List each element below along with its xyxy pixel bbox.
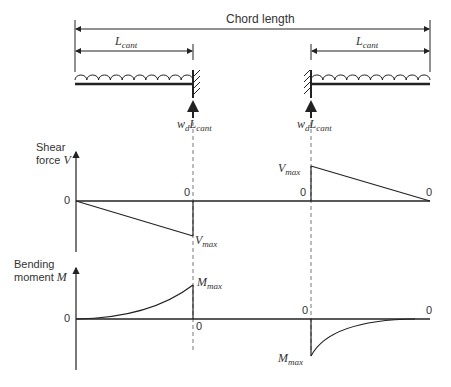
left-cantilever-beam — [75, 70, 200, 118]
right-span-label: Lcant — [356, 35, 378, 52]
moment-zero-right: 0 — [426, 304, 432, 316]
right-reaction-label: wdLcant — [297, 118, 332, 135]
shear-zero-right: 0 — [426, 186, 432, 198]
moment-mmax-left: Mmax — [197, 276, 222, 293]
distributed-load-right — [311, 75, 430, 80]
shear-vmax-left: Vmax — [195, 234, 217, 251]
fixed-support-hatch-right — [304, 70, 310, 94]
moment-zero-mid-left: 0 — [196, 320, 202, 332]
left-reaction-label: wdLcant — [177, 118, 212, 135]
shear-zero-left: 0 — [64, 194, 70, 206]
moment-axis-label: Bendingmoment M — [14, 258, 67, 284]
shear-zero-mid-left: 0 — [184, 186, 190, 198]
moment-mmax-right: Mmax — [278, 352, 303, 369]
moment-zero-left: 0 — [64, 312, 70, 324]
distributed-load-left — [75, 75, 193, 80]
left-span-label: Lcant — [115, 35, 137, 52]
moment-zero-mid-right: 0 — [302, 304, 308, 316]
shear-zero-mid-right: 0 — [300, 186, 306, 198]
right-cantilever-beam — [304, 70, 430, 118]
shear-diagram — [76, 152, 430, 252]
chord-length-label: Chord length — [226, 13, 295, 26]
shear-axis-label: Shearforce V — [36, 141, 71, 167]
fixed-support-hatch-left — [194, 70, 200, 94]
shear-vmax-right: Vmax — [278, 162, 300, 179]
moment-diagram — [76, 268, 430, 370]
